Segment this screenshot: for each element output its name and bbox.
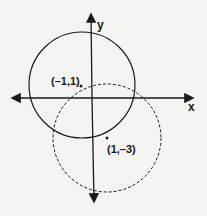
center-point-dashed (106, 137, 109, 140)
y-axis-label: y (97, 18, 104, 32)
center-label-dashed: (1,–3) (107, 143, 136, 155)
y-axis (91, 15, 92, 98)
center-label-solid: (–1,1) (51, 75, 80, 87)
center-point-solid (80, 85, 83, 88)
coordinate-diagram: x y (–1,1) (1,–3) (0, 0, 207, 216)
x-axis-label: x (188, 100, 195, 114)
y-axis (92, 98, 94, 201)
